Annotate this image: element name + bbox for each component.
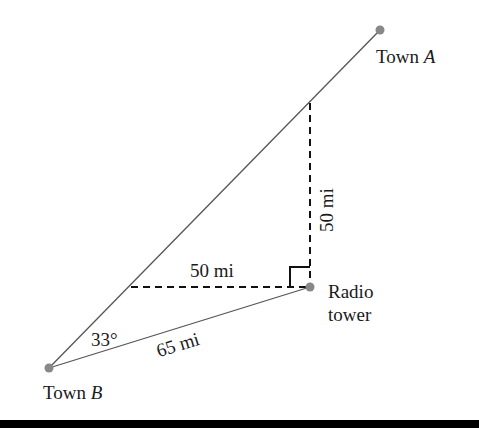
radio-tower-dot xyxy=(306,283,315,292)
distance-vertical-label: 50 mi xyxy=(317,188,336,232)
radio-tower-label-line2: tower xyxy=(328,305,371,324)
town-a-label: Town A xyxy=(376,47,435,66)
town-b-name: Town xyxy=(43,382,86,403)
town-b-dot xyxy=(45,364,54,373)
angle-label: 33° xyxy=(91,330,118,349)
radio-tower-label-line1: Radio xyxy=(328,282,373,301)
town-a-name: Town xyxy=(376,46,419,67)
bottom-bar xyxy=(0,420,479,428)
distance-horizontal-label: 50 mi xyxy=(190,261,234,280)
town-a-dot xyxy=(376,26,385,35)
town-a-letter: A xyxy=(424,46,436,67)
town-b-label: Town B xyxy=(43,383,102,402)
town-b-letter: B xyxy=(91,382,103,403)
